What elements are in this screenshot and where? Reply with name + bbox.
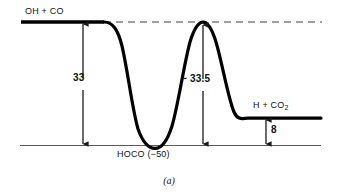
reactants-label: OH + CO bbox=[25, 7, 64, 16]
exothermicity-value-label: 8 bbox=[271, 125, 277, 135]
reverse-barrier-value-label: ~ 33.5 bbox=[181, 74, 210, 84]
forward-barrier-value-label: 33 bbox=[73, 73, 85, 83]
energy-profile-figure: OH + CO H + CO2 HOCO (−50) 33 ~ 33.5 8 (… bbox=[0, 0, 338, 196]
potential-energy-curve bbox=[104, 22, 321, 148]
intermediate-well-label: HOCO (−50) bbox=[117, 150, 170, 159]
figure-caption: (a) bbox=[0, 175, 338, 186]
products-label-subscript: 2 bbox=[284, 104, 288, 111]
energy-profile-chart bbox=[0, 0, 338, 196]
products-label-text: H + CO bbox=[253, 100, 284, 110]
products-label: H + CO2 bbox=[253, 101, 289, 111]
